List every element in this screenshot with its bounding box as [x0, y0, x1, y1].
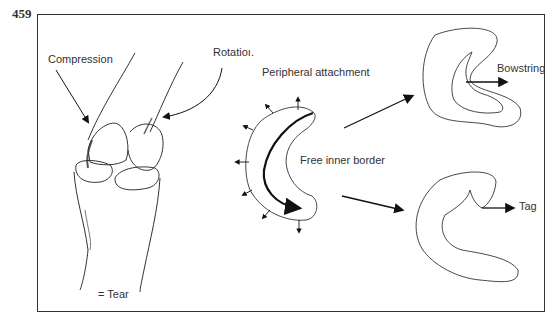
attachment-arrow [263, 210, 270, 218]
label-compression: Compression [48, 53, 113, 65]
label-rotation: Rotatioı. [213, 46, 254, 58]
arrow-to-tag [342, 196, 402, 210]
attachment-arrow [266, 105, 273, 113]
diagram-artwork [0, 0, 556, 318]
tibia-outline-right [140, 178, 160, 292]
label-free-inner-border: Free inner border [300, 154, 385, 166]
knee-joint-illustration [74, 53, 183, 292]
label-bowstring: Bowstring [497, 62, 545, 74]
tibia-outline-left [74, 172, 88, 290]
rotation-arrow [164, 68, 222, 117]
lateral-meniscus [115, 167, 159, 190]
compression-arrow [56, 70, 88, 122]
attachment-arrow [244, 126, 253, 130]
tag-tear-diagram [416, 172, 518, 282]
arrow-to-bowstring [344, 96, 412, 128]
attachment-arrow [243, 190, 252, 195]
label-tear-legend: = Tear [98, 288, 129, 300]
bowstring-tear-diagram [423, 28, 521, 127]
femur-outline-right [150, 62, 183, 132]
medial-condyle [88, 123, 128, 165]
femur-outline-left [88, 53, 135, 140]
label-tag: Tag [519, 200, 537, 212]
label-peripheral-attachment: Peripheral attachment [262, 66, 370, 78]
